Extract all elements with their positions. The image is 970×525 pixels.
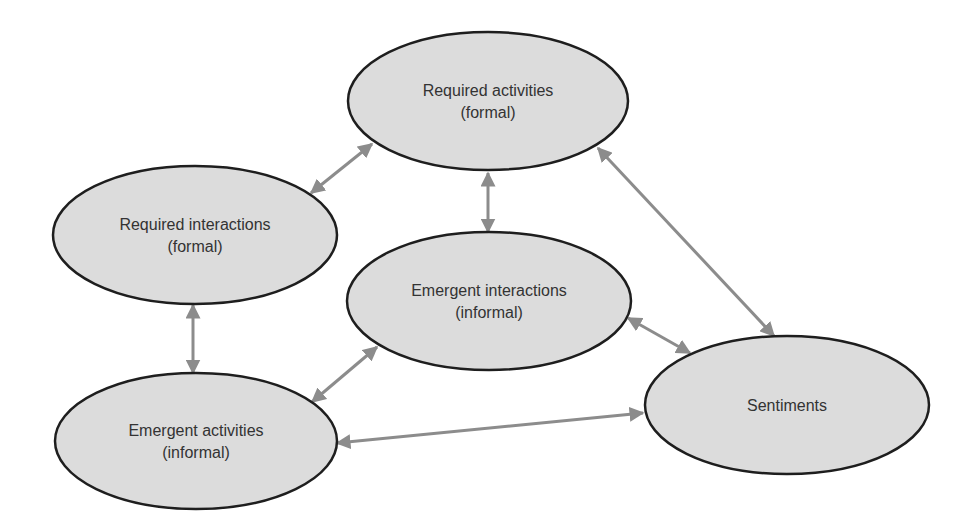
organizational-behavior-diagram: Required activities(formal)Required inte… (0, 0, 970, 525)
node-emergent-interactions: Emergent interactions(informal) (347, 232, 631, 370)
ellipse-emergent-activities (55, 373, 337, 509)
node-label-required-interactions-sub: (formal) (167, 238, 222, 255)
arrow-emergent-activities-to-sentiments (337, 413, 643, 443)
node-label-emergent-interactions-sub: (informal) (455, 304, 523, 321)
ellipse-emergent-interactions (347, 232, 631, 370)
arrow-emergent-interactions-to-sentiments (628, 318, 690, 353)
ellipse-required-activities (348, 32, 628, 170)
node-label-required-activities-sub: (formal) (460, 104, 515, 121)
arrow-required-interactions-to-required-activities (311, 144, 372, 193)
node-label-emergent-interactions: Emergent interactions (411, 282, 567, 299)
node-required-interactions: Required interactions(formal) (53, 166, 337, 304)
node-emergent-activities: Emergent activities(informal) (55, 373, 337, 509)
node-required-activities: Required activities(formal) (348, 32, 628, 170)
node-sentiments: Sentiments (645, 336, 929, 474)
node-label-emergent-activities: Emergent activities (128, 422, 263, 439)
node-label-sentiments: Sentiments (747, 397, 827, 414)
node-label-required-interactions: Required interactions (119, 216, 270, 233)
node-label-required-activities: Required activities (423, 82, 554, 99)
node-label-emergent-activities-sub: (informal) (162, 444, 230, 461)
arrow-emergent-activities-to-emergent-interactions (312, 347, 377, 402)
ellipse-required-interactions (53, 166, 337, 304)
nodes-layer: Required activities(formal)Required inte… (53, 32, 929, 509)
